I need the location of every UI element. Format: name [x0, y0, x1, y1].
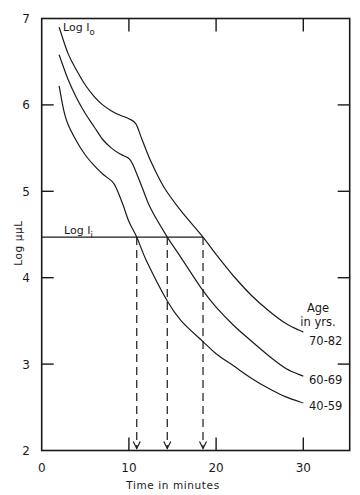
legend-label-70-82: 70-82: [309, 334, 342, 348]
legend-title-age: Age: [307, 301, 329, 315]
curve-age-60-69: [59, 55, 303, 376]
curve-age-70-82: [59, 27, 303, 332]
threshold-dashed-lines: [133, 237, 206, 448]
x-tick-label: 20: [208, 461, 223, 475]
x-tick-label: 0: [38, 461, 46, 475]
y-tick-label: 4: [22, 271, 30, 285]
arrow-down-icon: [200, 442, 207, 449]
arrow-down-icon: [133, 442, 140, 449]
legend-label-60-69: 60-69: [309, 373, 342, 387]
axis-tick-labels: 0102030234567: [22, 12, 311, 475]
age-legend: Agein yrs.70-8260-6940-59: [300, 301, 342, 413]
x-tick-label: 30: [296, 461, 311, 475]
y-tick-label: 5: [22, 185, 30, 199]
curve-age-40-59: [59, 86, 303, 403]
y-tick-label: 3: [22, 358, 30, 372]
x-axis-label: Time in minutes: [125, 479, 219, 491]
arrow-down-icon: [164, 442, 171, 449]
age-group-curves: [59, 27, 303, 403]
dark-adaptation-chart: 0102030234567 Log Io Log Ii Agein yrs.70…: [0, 0, 360, 495]
x-tick-label: 10: [121, 461, 136, 475]
legend-label-40-59: 40-59: [309, 399, 342, 413]
y-axis-label: Log μμL: [12, 220, 24, 266]
y-tick-label: 2: [22, 444, 30, 458]
log-io-annotation: Log Io: [63, 21, 95, 37]
y-tick-label: 7: [22, 12, 30, 26]
y-tick-label: 6: [22, 98, 30, 112]
legend-title-years: in yrs.: [300, 315, 335, 329]
